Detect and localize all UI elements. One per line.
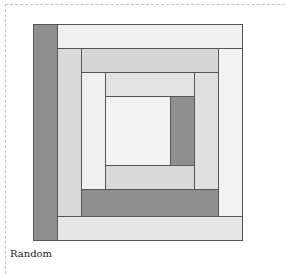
quilt-piece-outer-right-light	[218, 48, 243, 217]
quilt-piece-ring2-left	[57, 48, 82, 217]
quilt-piece-outer-bottom-light	[57, 216, 243, 241]
quilt-piece-outer-left-dark	[33, 24, 58, 241]
quilt-piece-ring3-top	[105, 72, 195, 97]
quilt-piece-ring3-left	[81, 72, 106, 190]
block-caption: Random	[10, 248, 52, 259]
quilt-piece-ring2-bottom-dark	[81, 189, 219, 217]
quilt-block[interactable]	[33, 24, 242, 240]
quilt-piece-center	[105, 96, 171, 166]
quilt-piece-outer-top-light	[57, 24, 243, 49]
quilt-piece-ring3-right-dark	[170, 96, 195, 166]
quilt-piece-ring3-bottom	[105, 165, 195, 190]
quilt-piece-ring2-right	[194, 72, 219, 190]
quilt-piece-ring2-top	[81, 48, 219, 73]
